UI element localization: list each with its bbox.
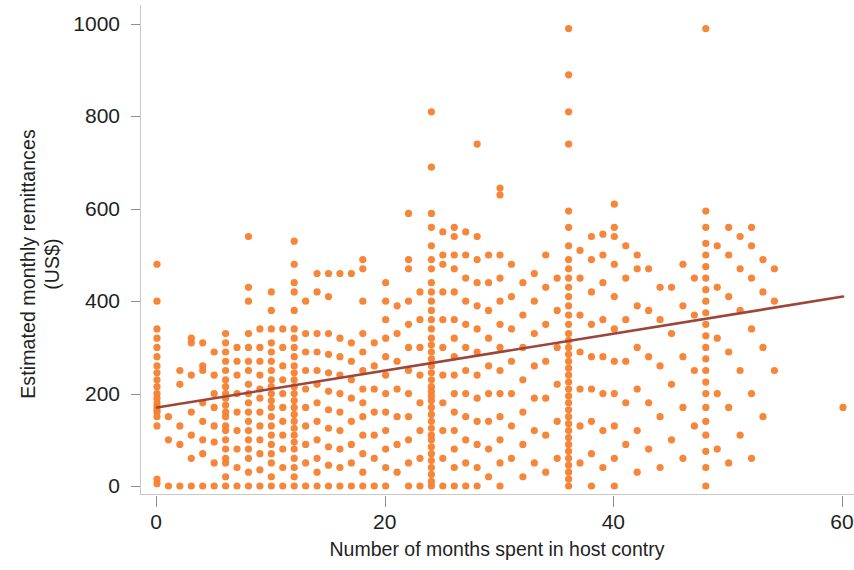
scatter-point (451, 251, 458, 258)
scatter-point (428, 316, 435, 323)
scatter-point (474, 279, 481, 286)
scatter-point (737, 233, 744, 240)
scatter-point (291, 482, 298, 489)
scatter-point (371, 339, 378, 346)
scatter-point (702, 332, 709, 339)
scatter-point (519, 408, 526, 415)
scatter-point (279, 464, 286, 471)
scatter-point (291, 288, 298, 295)
scatter-point (645, 265, 652, 272)
scatter-point (439, 427, 446, 434)
scatter-point (725, 224, 732, 231)
scatter-point (565, 358, 572, 365)
scatter-point (336, 464, 343, 471)
scatter-point (565, 365, 572, 372)
scatter-point (622, 242, 629, 249)
scatter-point (565, 399, 572, 406)
scatter-point (279, 344, 286, 351)
scatter-point (519, 311, 526, 318)
scatter-point (256, 372, 263, 379)
scatter-point (279, 432, 286, 439)
scatter-point (222, 436, 229, 443)
scatter-point (165, 436, 172, 443)
scatter-point (428, 404, 435, 411)
scatter-point (199, 482, 206, 489)
scatter-point (565, 265, 572, 272)
scatter-point (496, 251, 503, 258)
scatter-point (645, 307, 652, 314)
scatter-point (313, 469, 320, 476)
scatter-point (405, 436, 412, 443)
scatter-point (188, 408, 195, 415)
scatter-point (748, 455, 755, 462)
scatter-point (531, 459, 538, 466)
scatter-point (268, 288, 275, 295)
scatter-point (748, 224, 755, 231)
scatter-point (702, 286, 709, 293)
scatter-point (508, 390, 515, 397)
scatter-point (325, 330, 332, 337)
scatter-point (233, 358, 240, 365)
scatter-point (462, 367, 469, 374)
scatter-point (599, 316, 606, 323)
scatter-point (405, 413, 412, 420)
scatter-point (405, 298, 412, 305)
scatter-point (508, 422, 515, 429)
scatter-point (474, 464, 481, 471)
scatter-point (725, 459, 732, 466)
scatter-point (336, 482, 343, 489)
scatter-point (462, 228, 469, 235)
scatter-point (439, 316, 446, 323)
scatter-point (291, 376, 298, 383)
scatter-point (245, 344, 252, 351)
scatter-point (496, 298, 503, 305)
scatter-point (485, 473, 492, 480)
scatter-point (405, 321, 412, 328)
scatter-point (485, 279, 492, 286)
scatter-point (542, 469, 549, 476)
scatter-point (691, 422, 698, 429)
scatter-point (222, 376, 229, 383)
scatter-point (702, 240, 709, 247)
scatter-point (542, 321, 549, 328)
scatter-point (554, 275, 561, 282)
x-tick-label: 0 (116, 510, 196, 534)
scatter-point (279, 445, 286, 452)
scatter-point (645, 353, 652, 360)
scatter-point (291, 279, 298, 286)
scatter-point (565, 427, 572, 434)
scatter-point (336, 335, 343, 342)
x-axis-title: Number of months spent in host contry (140, 538, 854, 561)
scatter-point (485, 251, 492, 258)
scatter-point (565, 302, 572, 309)
scatter-point (256, 344, 263, 351)
scatter-point (668, 436, 675, 443)
scatter-point (725, 348, 732, 355)
scatter-point (634, 251, 641, 258)
scatter-point (268, 441, 275, 448)
scatter-point (565, 25, 572, 32)
scatter-point (256, 422, 263, 429)
scatter-point (679, 455, 686, 462)
scatter-point (702, 355, 709, 362)
scatter-point (222, 383, 229, 390)
scatter-point (496, 436, 503, 443)
scatter-point (737, 367, 744, 374)
scatter-point (759, 288, 766, 295)
scatter-point (428, 335, 435, 342)
scatter-point (394, 302, 401, 309)
scatter-point (428, 418, 435, 425)
scatter-point (153, 335, 160, 342)
scatter-point (371, 385, 378, 392)
scatter-point (233, 427, 240, 434)
scatter-point (359, 265, 366, 272)
scatter-point (359, 348, 366, 355)
scatter-point (485, 362, 492, 369)
scatter-point (748, 390, 755, 397)
scatter-point (565, 275, 572, 282)
scatter-point (714, 242, 721, 249)
scatter-point (737, 432, 744, 439)
scatter-point (474, 441, 481, 448)
scatter-point (565, 434, 572, 441)
scatter-point (565, 344, 572, 351)
